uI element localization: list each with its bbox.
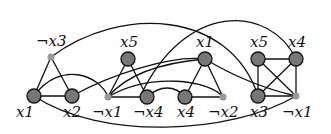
graph-node xyxy=(121,52,135,66)
graph-node xyxy=(48,54,55,61)
graph-node xyxy=(198,52,212,66)
graph-edge xyxy=(108,81,223,97)
node-label: x3 xyxy=(250,103,268,121)
node-label: x1 xyxy=(196,33,214,51)
graph-node xyxy=(140,90,154,104)
graph-node xyxy=(27,89,41,103)
node-label: x2 xyxy=(63,103,81,121)
graph-node xyxy=(293,93,300,100)
graph-node xyxy=(220,94,227,101)
graph-edge xyxy=(108,59,205,97)
graph-node xyxy=(251,89,265,103)
node-label: ¬x1 xyxy=(282,103,313,121)
graph-edge xyxy=(51,23,258,96)
graph-node xyxy=(65,89,79,103)
node-label: x5 xyxy=(120,33,138,51)
graph-node xyxy=(105,94,112,101)
graph-node xyxy=(178,90,192,104)
graph-diagram: ¬x3x1x2¬x1x5¬x4x1x4¬x2x5x4x3¬x1 xyxy=(0,0,331,134)
node-label: ¬x1 xyxy=(92,103,123,121)
graph-node xyxy=(251,52,265,66)
node-label: ¬x3 xyxy=(36,32,67,50)
node-label: x4 xyxy=(177,103,195,121)
node-label: ¬x4 xyxy=(133,103,164,121)
node-label: x4 xyxy=(288,33,306,51)
node-label: ¬x2 xyxy=(208,103,239,121)
graph-node xyxy=(289,52,303,66)
node-label: x1 xyxy=(16,103,34,121)
node-label: x5 xyxy=(250,33,268,51)
